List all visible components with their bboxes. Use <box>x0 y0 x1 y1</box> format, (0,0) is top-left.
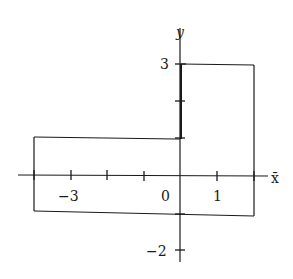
y-tick-label-neg2: −2 <box>146 243 167 259</box>
x-axis-label: x̄ <box>271 170 279 186</box>
x-tick-label-0: 0 <box>161 188 170 204</box>
x-axis <box>18 175 268 176</box>
region-boundary <box>34 137 180 139</box>
y-axis-label: y <box>175 24 185 40</box>
x-tick-label-1: 1 <box>213 188 222 204</box>
region-bottom-edge <box>34 211 254 216</box>
coordinate-plot: y x̄ −3 0 1 3 −2 <box>0 0 293 279</box>
region-top-edge <box>181 64 254 65</box>
diagram-canvas: y x̄ −3 0 1 3 −2 <box>0 0 293 279</box>
y-tick-label-3: 3 <box>160 56 169 72</box>
x-tick-label-neg3: −3 <box>58 188 79 204</box>
